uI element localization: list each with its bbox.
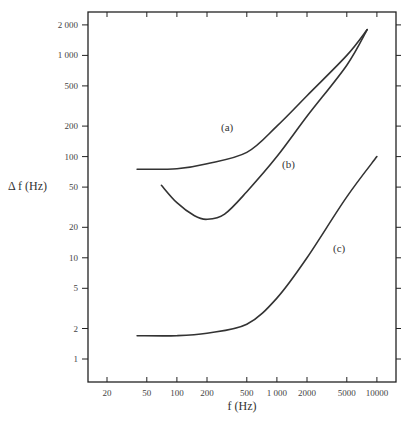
chart: 20501002005001 0002000500010000 12510205… [0,0,412,422]
curve-b [161,30,367,220]
x-tick-label: 2000 [298,388,317,398]
curve-label-c: (c) [333,242,346,255]
y-tick-label: 50 [69,182,79,192]
y-tick-label: 2 000 [58,20,79,30]
x-tick-label: 100 [170,388,184,398]
x-tick-label: 200 [200,388,214,398]
y-axis-label: Δ f (Hz) [8,179,47,193]
y-tick-label: 2 [74,324,79,334]
x-axis-ticks: 20501002005001 0002000500010000 [103,12,389,398]
curve-label-a: (a) [221,121,234,134]
x-tick-label: 10000 [366,388,389,398]
y-tick-label: 1 [74,354,79,364]
x-tick-label: 20 [103,388,113,398]
x-tick-label: 500 [240,388,254,398]
x-tick-label: 5000 [338,388,357,398]
curve-a [137,30,367,170]
y-tick-label: 200 [65,121,79,131]
x-tick-label: 1 000 [267,388,288,398]
x-tick-label: 50 [142,388,152,398]
y-tick-label: 10 [69,253,79,263]
y-tick-label: 1 000 [58,50,79,60]
y-tick-label: 20 [69,222,79,232]
curve-label-b: (b) [282,158,295,171]
curves [137,30,377,336]
y-tick-label: 500 [65,81,79,91]
y-tick-label: 5 [74,283,79,293]
x-axis-label: f (Hz) [228,399,257,413]
y-tick-label: 100 [65,152,79,162]
